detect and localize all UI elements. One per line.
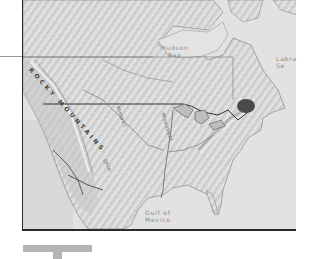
label-labrador-sea: Labra Se xyxy=(276,55,296,69)
legend-bar-stem xyxy=(53,252,62,259)
label-hudson-bay: Hudson Bay xyxy=(161,44,189,58)
legend-bar xyxy=(23,245,92,252)
map-frame: Hudson Bay Labra Se Gulf of Mexico ROCKY… xyxy=(22,0,296,231)
label-gulf-of-mexico: Gulf of Mexico xyxy=(145,209,171,223)
highlighted-region xyxy=(237,99,255,113)
